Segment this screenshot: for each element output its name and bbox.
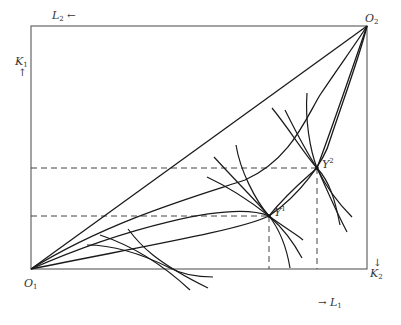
label-l1: → L1	[318, 297, 342, 310]
label-y2: Y2	[322, 158, 334, 170]
label-y1-sup: 1	[281, 205, 285, 213]
arrow-left-icon: ←	[67, 10, 75, 21]
arrow-right-icon: →	[318, 297, 326, 308]
label-y2-sup: 2	[329, 157, 333, 165]
arrow-up-icon: ↑	[18, 68, 26, 78]
label-o2: O2	[365, 13, 379, 26]
label-l1-sub: 1	[337, 302, 341, 310]
tangency-point-y1	[267, 214, 271, 218]
tangency-point-y2	[315, 166, 319, 170]
label-k2-base: K	[370, 267, 378, 280]
isoquants-lower	[87, 229, 213, 290]
label-l2: L2 ←	[52, 10, 76, 23]
label-k2-sub: 2	[378, 273, 382, 281]
label-l2-sub: 2	[59, 15, 63, 23]
label-o1-base: O	[24, 277, 33, 290]
label-o1-sub: 1	[33, 283, 37, 291]
label-o1: O1	[24, 278, 38, 291]
edgeworth-box-diagram	[0, 0, 401, 325]
label-y1: Y1	[274, 206, 286, 218]
isoquants-y1	[207, 145, 303, 268]
label-k2: K2	[370, 268, 383, 281]
label-o2-sub: 2	[374, 18, 378, 26]
label-o2-base: O	[365, 12, 374, 25]
